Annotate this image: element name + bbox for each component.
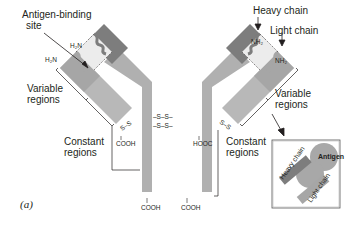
variable-regions-left-1: Variable [27,83,63,94]
right-light-n-terminus: NH₂ [275,57,287,64]
heavy-chain-label: Heavy chain [253,5,308,16]
left-light-n-terminus: H₂N [45,56,57,63]
hinge-disulfide-top: –S–S– [153,113,173,120]
constant-regions-left-2: regions [64,147,97,158]
antigen-binding-inset: Antigen Heavy chain Light chain [272,140,344,208]
right-heavy-c-terminus: COOH [181,204,201,211]
constant-regions-right-1: Constant [226,136,266,147]
antigen-binding-site-label-2: site [26,20,42,31]
left-heavy-n-terminus: H₂N [70,42,82,49]
light-chain-label: Light chain [270,25,318,36]
variable-regions-left-2: regions [27,94,60,105]
variable-regions-right-1: Variable [275,88,311,99]
left-light-c-terminus: COOH [116,140,136,147]
hinge-disulfide-bottom: –S–S– [153,122,173,129]
right-light-c-terminus: HOOC [193,140,213,147]
antibody-structure-diagram: Antigen-binding site Heavy chain Light c… [0,0,354,226]
disulfide-bonds: S–S S–S –S–S– –S–S– [119,113,233,132]
left-heavy-c-terminus: COOH [141,204,161,211]
antigen-binding-site-label-1: Antigen-binding [22,9,92,20]
constant-regions-left-1: Constant [64,136,104,147]
left-interchain-disulfide: S–S [119,119,134,132]
panel-label: (a) [20,198,33,211]
constant-regions-right-2: regions [226,147,259,158]
variable-regions-right-2: regions [275,99,308,110]
inset-antigen-label: Antigen [318,153,344,161]
right-interchain-disulfide: S–S [218,118,233,131]
right-heavy-n-terminus: NH₂ [251,38,263,45]
